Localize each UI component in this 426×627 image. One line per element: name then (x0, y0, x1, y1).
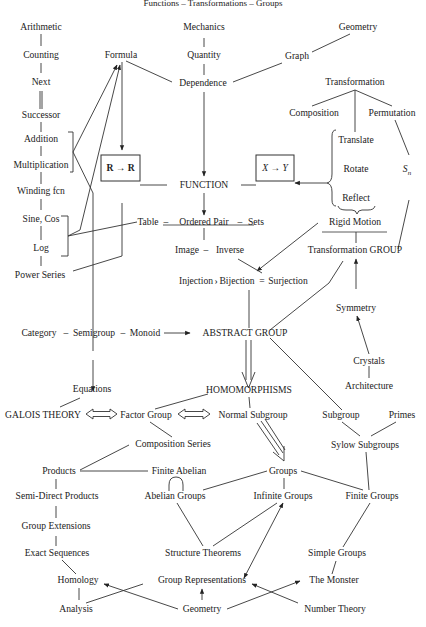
node-rigid-motion: Rigid Motion (329, 216, 381, 227)
node-sine-cos: Sine, Cos (23, 213, 60, 224)
node-addition: Addition (24, 133, 58, 144)
s-n-subscript: n (408, 169, 412, 177)
node-quantity: Quantity (187, 49, 221, 60)
node-transformation: Transformation (325, 76, 385, 87)
node-graph: Graph (285, 50, 309, 61)
node-the-monster: The Monster (309, 574, 359, 585)
node-geometry-bottom: Geometry (183, 603, 222, 614)
concept-map-diagram: Functions – Transformations – Groups (0, 0, 426, 627)
node-r-to-r: R → R (106, 162, 135, 173)
node-exact-sequences: Exact Sequences (25, 547, 90, 558)
node-category: Category (21, 327, 56, 338)
node-next: Next (32, 76, 51, 87)
node-products: Products (42, 465, 76, 476)
node-equations: Equations (73, 383, 112, 394)
node-sylow-subgroups: Sylow Subgroups (331, 439, 399, 450)
node-dependence: Dependence (179, 77, 226, 88)
node-log: Log (33, 242, 49, 253)
node-simple-groups: Simple Groups (308, 547, 366, 558)
node-number-theory: Number Theory (304, 603, 366, 614)
node-counting: Counting (23, 49, 59, 60)
node-ordered-pair: Ordered Pair (179, 216, 229, 227)
sep-cat-semi: – (63, 327, 69, 338)
node-group-extensions: Group Extensions (21, 520, 90, 531)
node-bijection: Bijection (219, 275, 254, 286)
sep-ordered-sets: – (237, 216, 243, 227)
sep-table-ordered: – (163, 216, 169, 227)
sep-image-inverse: – (203, 244, 209, 255)
diagram-title: Functions – Transformations – Groups (143, 0, 283, 8)
node-rotate: Rotate (343, 163, 368, 174)
node-inverse: Inverse (216, 244, 244, 255)
node-semi-direct-products: Semi-Direct Products (16, 490, 99, 501)
node-structure-theorems: Structure Theorems (165, 547, 241, 558)
node-abstract-group: ABSTRACT GROUP (203, 327, 288, 338)
node-mechanics: Mechanics (183, 21, 225, 32)
node-labels: Arithmetic Counting Next Successor Addit… (5, 21, 416, 614)
node-function: FUNCTION (180, 179, 229, 190)
node-abelian-groups: Abelian Groups (144, 490, 205, 501)
node-group-representations: Group Representations (158, 574, 246, 585)
node-symmetry: Symmetry (336, 302, 376, 313)
node-geometry-top: Geometry (339, 21, 378, 32)
node-semigroup: Semigroup (73, 327, 115, 338)
node-injection: Injection (179, 275, 213, 286)
node-x-to-y: X → Y (261, 162, 289, 173)
edges (40, 34, 409, 609)
sep-inj-bij: › (214, 275, 217, 286)
node-crystals: Crystals (353, 355, 385, 366)
node-translate: Translate (338, 134, 373, 145)
sep-semi-mono: – (120, 327, 126, 338)
node-infinite-groups: Infinite Groups (254, 490, 313, 501)
node-finite-abelian: Finite Abelian (152, 465, 207, 476)
node-surjection: Surjection (268, 275, 308, 286)
node-formula: Formula (105, 49, 138, 60)
node-sets: Sets (248, 216, 264, 227)
node-primes: Primes (389, 409, 416, 420)
node-composition-series: Composition Series (135, 438, 211, 449)
node-image: Image (175, 244, 199, 255)
node-analysis: Analysis (59, 603, 93, 614)
node-homology: Homology (57, 574, 98, 585)
node-galois-theory: GALOIS THEORY (5, 409, 81, 420)
node-monoid: Monoid (130, 327, 161, 338)
node-successor: Successor (22, 109, 61, 120)
node-finite-groups: Finite Groups (345, 490, 398, 501)
node-power-series: Power Series (15, 269, 66, 280)
node-permutation: Permutation (369, 107, 416, 118)
node-table: Table (137, 216, 158, 227)
node-subgroup: Subgroup (322, 409, 360, 420)
node-factor-group: Factor Group (120, 409, 172, 420)
node-multiplication: Multiplication (14, 159, 69, 170)
node-reflect: Reflect (342, 192, 370, 203)
node-winding-fcn: Winding fcn (17, 185, 65, 196)
node-homomorphisms: HOMOMORPHISMS (206, 384, 292, 395)
node-architecture: Architecture (345, 380, 393, 391)
node-transformation-group: Transformation GROUP (308, 244, 402, 255)
node-normal-subgroup: Normal Subgroup (218, 409, 287, 420)
node-arithmetic: Arithmetic (20, 21, 62, 32)
sep-bij-surj: = (259, 275, 264, 286)
node-composition: Composition (289, 107, 339, 118)
node-groups: Groups (269, 465, 298, 476)
node-s-n: Sn (403, 163, 412, 177)
